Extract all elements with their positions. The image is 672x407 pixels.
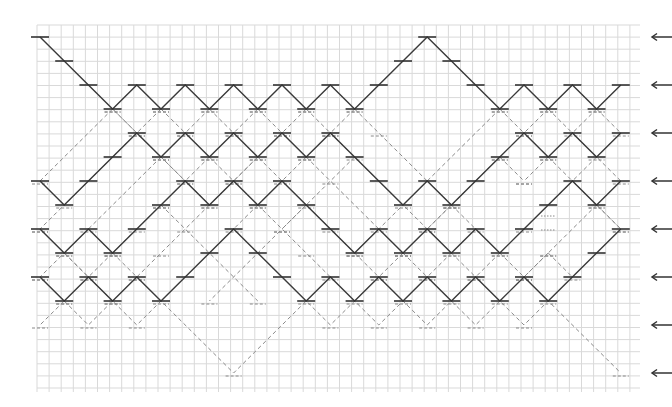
dashed-trace [524,157,548,181]
dashed-trace [113,253,137,277]
dashed-trace [282,109,306,133]
dashed-trace [572,109,596,133]
left-arrow-icon [652,274,672,281]
dashed-trace [451,253,475,277]
input-arrows [652,34,672,377]
dashed-trace [64,253,88,277]
dashed-trace [403,253,427,277]
solid-trace-path-4 [40,229,621,301]
dashed-trace [476,253,500,277]
dashed-trace [64,301,621,373]
dashed-trace [282,157,306,181]
left-arrow-icon [652,178,672,185]
dashed-trace [258,205,331,277]
dashed-trace [185,109,209,133]
dashed-trace [137,205,210,277]
dashed-trace [500,253,524,277]
dashed-trace [524,109,548,133]
dashed-trace [379,253,403,277]
dashed-trace [330,109,354,133]
dashed-trace [548,253,572,277]
dashed-trace [427,253,451,277]
solid-trace-path-3 [40,181,621,253]
left-arrow-icon [652,370,672,377]
dashed-trace [258,109,282,133]
dashed-trace [451,205,475,229]
dashed-trace [500,109,524,133]
dashed-trace [524,205,597,277]
dashed-trace [88,253,112,277]
dashed-trace [40,157,161,277]
dashed-trace [597,109,621,133]
dashed-trace [355,253,379,277]
grid [37,25,640,392]
left-arrow-icon [652,34,672,41]
dashed-trace [185,157,209,181]
dashed-trace [161,109,185,133]
solid-traces [40,37,621,301]
dashed-trace [234,205,258,229]
left-arrow-icon [652,82,672,89]
dashed-trace [234,109,258,133]
lattice-diagram [0,0,672,407]
dashed-trace [209,157,233,181]
dashed-trace [306,109,330,133]
left-arrow-icon [652,322,672,329]
dashed-trace [500,157,524,181]
left-arrow-icon [652,130,672,137]
dashed-trace [209,109,233,133]
left-arrow-icon [652,226,672,233]
